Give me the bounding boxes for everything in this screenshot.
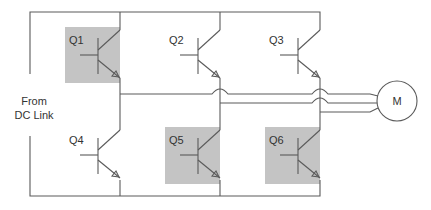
transistor-q4: Q4: [69, 130, 120, 178]
switch-label: Q4: [69, 134, 84, 146]
switch-label: Q6: [269, 134, 284, 146]
leg-connections: [120, 78, 320, 130]
phase-b-wire: [220, 98, 377, 103]
emitter-lead: [198, 60, 220, 78]
collector-lead: [198, 30, 220, 50]
source-label: From DC Link: [6, 94, 62, 122]
switch-label: Q3: [269, 34, 284, 46]
motor: M: [377, 81, 417, 121]
motor-label: M: [392, 95, 401, 107]
source-label-line1: From: [6, 94, 62, 108]
collector-lead: [298, 30, 320, 50]
emitter-lead: [98, 160, 120, 178]
source-label-line2: DC Link: [6, 108, 62, 122]
switch-label: Q1: [69, 34, 84, 46]
phase-c-wire: [320, 108, 378, 112]
transistor-q3: Q3: [269, 30, 320, 78]
shaded-highlights: [65, 27, 320, 184]
emitter-lead: [298, 60, 320, 78]
collector-lead: [98, 130, 120, 150]
switch-label: Q5: [169, 134, 184, 146]
switch-label: Q2: [169, 34, 184, 46]
transistor-q2: Q2: [169, 30, 220, 78]
phase-wires: [120, 89, 378, 112]
phase-a-wire: [120, 89, 378, 96]
inverter-diagram: M Q1Q2Q3Q4Q5Q6: [0, 0, 431, 210]
